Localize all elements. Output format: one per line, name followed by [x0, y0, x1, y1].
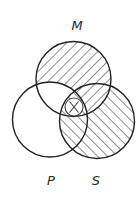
x-marker-icon: [65, 98, 83, 116]
label-s: S: [92, 173, 100, 188]
label-p: P: [47, 173, 55, 188]
label-m: M: [71, 18, 82, 33]
venn-diagram: M P S: [0, 0, 140, 214]
